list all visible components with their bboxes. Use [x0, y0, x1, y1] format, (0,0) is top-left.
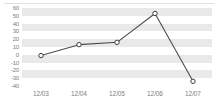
x-axis-tick-label: 12/04 — [71, 90, 87, 98]
y-axis-tick-label: -40 — [11, 83, 19, 89]
x-axis-tick-label: 12/03 — [33, 90, 49, 98]
data-point-marker — [77, 42, 81, 46]
series-layer — [22, 8, 212, 86]
line-chart: 6050403020100-10-20-30-40 12/0312/0412/0… — [0, 0, 218, 106]
data-point-marker — [191, 79, 195, 83]
data-point-marker — [39, 53, 43, 57]
y-axis-tick-label: 30 — [13, 28, 19, 34]
x-axis: 12/0312/0412/0512/0612/07 — [22, 90, 212, 102]
x-axis-tick-label: 12/07 — [185, 90, 201, 98]
y-axis-tick-label: -20 — [11, 67, 19, 73]
y-axis-tick-label: 10 — [13, 44, 19, 50]
x-axis-tick-label: 12/05 — [109, 90, 125, 98]
y-axis-tick-label: 40 — [13, 21, 19, 27]
top-divider — [4, 3, 214, 4]
series-markers — [39, 11, 195, 83]
x-axis-tick-label: 12/06 — [147, 90, 163, 98]
y-axis-tick-label: 0 — [16, 52, 19, 58]
y-axis-tick-label: 60 — [13, 5, 19, 11]
y-axis-tick-label: 20 — [13, 36, 19, 42]
series-line — [41, 13, 193, 81]
y-axis-tick-label: -30 — [11, 75, 19, 81]
data-point-marker — [153, 11, 157, 15]
plot-area — [22, 8, 212, 86]
y-axis-tick-label: 50 — [13, 13, 19, 19]
data-point-marker — [115, 40, 119, 44]
y-axis: 6050403020100-10-20-30-40 — [0, 8, 20, 86]
y-axis-tick-label: -10 — [11, 60, 19, 66]
